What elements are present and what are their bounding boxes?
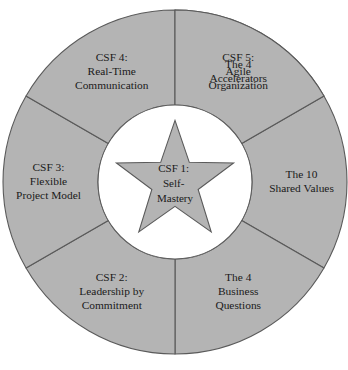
segment-label-line: Commitment	[82, 298, 143, 310]
segment-label-line: Flexible	[30, 175, 67, 187]
segment-label-line: Organization	[209, 79, 269, 91]
segment-label-line: Real-Time	[88, 65, 136, 77]
segment-label-line: Project Model	[16, 189, 81, 201]
segment-label-line: Questions	[215, 298, 261, 310]
wheel-svg: The 4AcceleratorsThe 10Shared ValuesThe …	[0, 0, 348, 370]
segment-label-line: The 4	[225, 270, 252, 282]
segment-label-line: CSF 5:	[222, 51, 254, 63]
segment-label-line: CSF 3:	[33, 161, 65, 173]
segment-label-line: CSF 2:	[96, 270, 128, 282]
segment-label-line: Shared Values	[269, 182, 334, 194]
segment-label-line: Communication	[75, 79, 149, 91]
segment-label-line: Leadership by	[79, 284, 144, 296]
segment-label-line: The 10	[286, 168, 318, 180]
segment-label-line: Agile	[226, 65, 251, 77]
hub-label-line2: Self-	[163, 177, 185, 189]
segment-label-line: CSF 4:	[96, 51, 128, 63]
hub-label-line3: Mastery	[157, 192, 194, 204]
wheel-diagram: The 4AcceleratorsThe 10Shared ValuesThe …	[0, 0, 348, 370]
hub-label-line1: CSF 1:	[158, 162, 189, 174]
segment-label-line: Business	[218, 284, 259, 296]
